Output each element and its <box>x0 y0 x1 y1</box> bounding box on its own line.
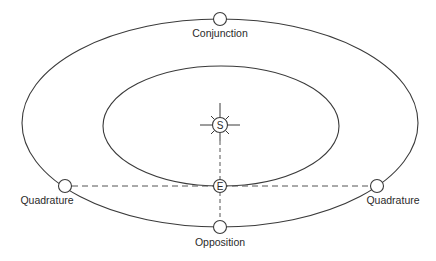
orbit-diagram: S E Conjunction Opposition Quadrature Qu… <box>0 0 436 261</box>
earth-symbol: E <box>217 181 224 192</box>
conjunction-label: Conjunction <box>192 27 248 39</box>
quadrature-right-label: Quadrature <box>366 194 419 206</box>
opposition-label: Opposition <box>195 236 245 248</box>
quadrature-right-planet-marker <box>371 180 384 193</box>
quadrature-left-planet-marker <box>59 180 72 193</box>
earth-icon: E <box>214 180 227 193</box>
conjunction-planet-marker <box>214 13 227 26</box>
sun-symbol: S <box>217 120 224 131</box>
quadrature-left-label: Quadrature <box>20 194 73 206</box>
sun-icon: S <box>200 103 240 141</box>
opposition-planet-marker <box>214 221 227 234</box>
